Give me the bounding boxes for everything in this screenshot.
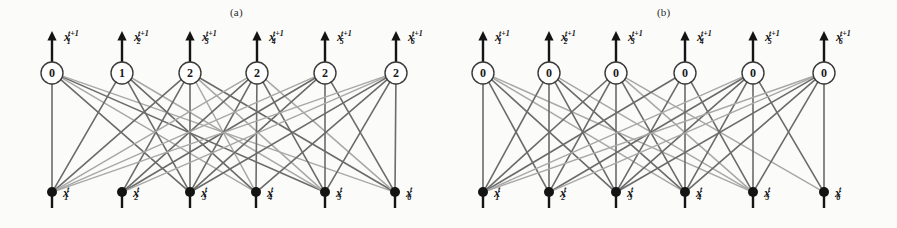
edge-t6-b4-b xyxy=(688,80,815,190)
edge-t6-b6-a xyxy=(395,84,396,188)
bottom-node-label-6-b: xt6 xyxy=(835,186,840,202)
top-node-label-3-b: xt+13 xyxy=(628,30,635,46)
bottom-node-dot-4-a[interactable] xyxy=(251,187,261,197)
top-node-value-6-a: 2 xyxy=(386,67,406,79)
top-node-label-2-b: xt+12 xyxy=(561,30,568,46)
up-arrow-icon-5-b xyxy=(748,31,757,41)
bottom-node-label-2-b: xt2 xyxy=(560,186,565,202)
top-node-label-1-b: xt+11 xyxy=(495,30,502,46)
bottom-node-label-4-a: xt4 xyxy=(267,186,272,202)
figure-canvas: (a)0xt+111xt+122xt+132xt+142xt+152xt+16x… xyxy=(0,0,897,228)
panel-caption-b: (b) xyxy=(657,6,670,18)
up-arrow-icon-4-b xyxy=(680,31,689,41)
edge-t5-b1-b xyxy=(487,77,743,191)
up-arrow-icon-3-b xyxy=(611,31,620,41)
up-arrow-icon-2-b xyxy=(544,31,553,41)
top-node-label-5-a: xt+15 xyxy=(337,30,344,46)
edge-t1-b3-a xyxy=(61,80,187,190)
panel-b xyxy=(472,31,835,208)
top-node-label-3-a: xt+13 xyxy=(202,30,209,46)
bottom-node-dot-2-b[interactable] xyxy=(544,187,554,197)
bottom-node-label-6-a: xt6 xyxy=(406,186,411,202)
top-node-value-1-a: 0 xyxy=(42,67,62,79)
edge-t6-b4-a xyxy=(259,80,387,190)
panel-a xyxy=(41,31,407,208)
edge-t3-b2-b xyxy=(551,82,610,188)
bottom-node-label-4-b: xt4 xyxy=(696,186,701,202)
top-node-label-2-a: xt+12 xyxy=(134,30,141,46)
bottom-node-dot-5-b[interactable] xyxy=(748,187,758,197)
bottom-node-6-b[interactable] xyxy=(819,187,829,208)
up-arrow-icon-1-b xyxy=(478,31,487,41)
bottom-node-3-b[interactable] xyxy=(611,187,621,208)
top-node-label-1-a: xt+11 xyxy=(64,30,71,46)
top-node-label-6-b: xt+16 xyxy=(836,30,843,46)
top-node-value-2-b: 0 xyxy=(539,67,559,79)
up-arrow-icon-6-b xyxy=(819,31,828,41)
bottom-node-4-a[interactable] xyxy=(251,187,261,208)
panel-caption-a: (a) xyxy=(230,6,243,18)
bottom-node-label-1-b: xt1 xyxy=(494,186,499,202)
bottom-node-dot-1-a[interactable] xyxy=(47,187,57,197)
edge-group-b xyxy=(483,76,824,191)
bottom-node-dot-6-b[interactable] xyxy=(819,187,829,197)
bottom-node-dot-1-b[interactable] xyxy=(478,187,488,197)
bottom-node-label-3-a: xt3 xyxy=(201,186,206,202)
bottom-node-2-b[interactable] xyxy=(544,187,554,208)
top-node-value-5-a: 2 xyxy=(315,67,335,79)
bottom-node-3-a[interactable] xyxy=(185,187,195,208)
edge-t4-b4-a xyxy=(256,84,257,188)
edge-group-a xyxy=(52,76,396,191)
top-node-label-4-a: xt+14 xyxy=(269,30,276,46)
top-node-value-4-a: 2 xyxy=(247,67,267,79)
up-arrow-icon-5-a xyxy=(320,31,329,41)
top-node-value-5-b: 0 xyxy=(743,67,763,79)
bottom-node-dot-4-b[interactable] xyxy=(680,187,690,197)
edge-t2-b3-a xyxy=(128,82,188,188)
edge-t1-b5-b xyxy=(493,77,749,191)
up-arrow-icon-3-a xyxy=(185,31,194,41)
bottom-node-dot-2-a[interactable] xyxy=(117,187,127,197)
top-node-value-3-b: 0 xyxy=(606,67,626,79)
bottom-node-label-5-b: xt5 xyxy=(764,186,769,202)
edge-t2-b1-b xyxy=(485,82,543,188)
bottom-node-dot-6-a[interactable] xyxy=(390,187,400,197)
top-node-value-4-b: 0 xyxy=(675,67,695,79)
bottom-node-1-b[interactable] xyxy=(478,187,488,208)
bottom-node-5-b[interactable] xyxy=(748,187,758,208)
up-arrow-icon-1-a xyxy=(47,31,56,41)
bottom-node-1-a[interactable] xyxy=(47,187,57,208)
edge-t2-b4-b xyxy=(558,80,682,190)
top-node-value-1-b: 0 xyxy=(473,67,493,79)
bottom-node-2-a[interactable] xyxy=(117,187,127,208)
up-arrow-icon-4-a xyxy=(252,31,261,41)
top-node-label-4-b: xt+14 xyxy=(697,30,704,46)
top-node-value-3-a: 2 xyxy=(180,67,200,79)
bottom-node-label-2-a: xt2 xyxy=(133,186,138,202)
bottom-node-4-b[interactable] xyxy=(680,187,690,208)
top-node-value-2-a: 1 xyxy=(112,67,132,79)
edge-t2-b3-b xyxy=(555,82,614,188)
bottom-node-label-5-a: xt5 xyxy=(336,186,341,202)
bottom-node-label-3-b: xt3 xyxy=(627,186,632,202)
top-node-value-6-b: 0 xyxy=(814,67,834,79)
top-node-label-6-a: xt+16 xyxy=(408,30,415,46)
bottom-node-label-1-a: xt1 xyxy=(63,186,68,202)
bottom-node-6-a[interactable] xyxy=(390,187,400,208)
bottom-node-dot-3-b[interactable] xyxy=(611,187,621,197)
up-arrow-icon-6-a xyxy=(391,31,400,41)
up-arrow-icon-2-a xyxy=(117,31,126,41)
bottom-node-5-a[interactable] xyxy=(320,187,330,208)
edge-t5-b1-a xyxy=(56,77,315,191)
bottom-node-dot-5-a[interactable] xyxy=(320,187,330,197)
bottom-node-dot-3-a[interactable] xyxy=(185,187,195,197)
top-node-label-5-b: xt+15 xyxy=(765,30,772,46)
